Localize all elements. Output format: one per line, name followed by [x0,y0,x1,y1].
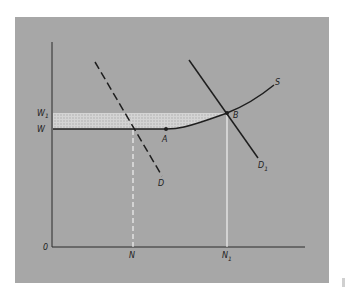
demand-d1-label: D1 [258,161,268,172]
demand-curve-d1 [189,60,258,158]
n-label: N [129,251,135,260]
origin-label: 0 [43,243,48,252]
point-b-marker [225,111,229,115]
shaded-wage-gap-region [53,113,227,129]
supply-label: S [275,78,280,87]
labor-market-diagram: 0 W W1 N N1 S D D1 A B [0,0,345,297]
w-label: W [37,125,46,134]
demand-d-label: D [158,179,164,188]
point-a-marker [164,127,168,131]
point-b-label: B [233,111,239,120]
point-a-label: A [161,135,167,144]
w1-label: W1 [37,109,49,119]
n1-label: N1 [222,251,232,262]
